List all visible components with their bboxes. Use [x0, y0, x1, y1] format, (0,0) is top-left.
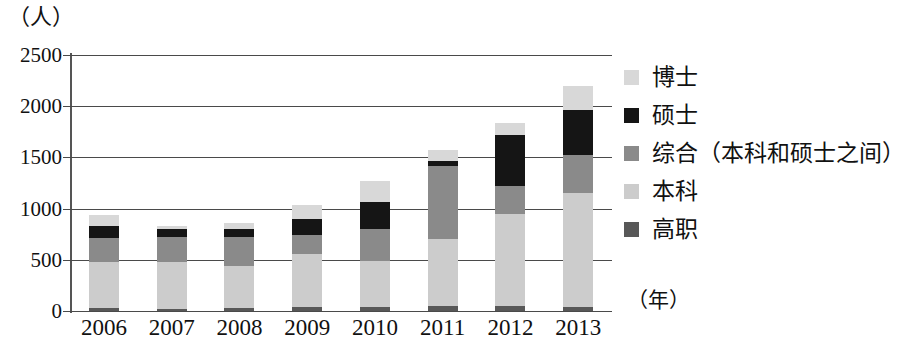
bar-segment — [157, 309, 187, 311]
bar-segment — [495, 135, 525, 186]
y-axis-tick-label: 1500 — [20, 147, 62, 168]
bar-segment — [563, 110, 593, 155]
bar-segment — [224, 308, 254, 311]
legend-swatch-icon — [624, 184, 639, 199]
x-axis-tick-labels: 20062007200820092010201120122013 — [70, 314, 612, 344]
bar-segment — [360, 261, 390, 307]
bar-segment — [495, 123, 525, 135]
gridline — [70, 157, 612, 158]
bar-segment — [157, 237, 187, 262]
bar-segment — [224, 229, 254, 237]
bar-segment — [89, 238, 119, 262]
bar-2010[interactable] — [360, 181, 390, 311]
x-axis-tick-label-2012: 2012 — [473, 314, 547, 343]
legend-item-2[interactable]: 综合（本科和硕士之间） — [624, 134, 908, 172]
legend-swatch-icon — [624, 146, 639, 161]
bar-2007[interactable] — [157, 226, 187, 311]
gridline — [70, 106, 612, 107]
bar-segment — [563, 155, 593, 193]
bar-segment — [495, 306, 525, 311]
x-axis-tick-label-2006: 2006 — [67, 314, 141, 343]
gridline — [70, 55, 612, 56]
legend-item-4[interactable]: 高职 — [624, 210, 908, 248]
legend-swatch-icon — [624, 108, 639, 123]
gridline — [70, 311, 612, 312]
y-axis-tick — [63, 209, 70, 210]
legend-label: 本科 — [652, 180, 698, 203]
x-axis-tick-label-2011: 2011 — [406, 314, 480, 343]
bar-segment — [360, 202, 390, 229]
bar-segment — [89, 226, 119, 238]
bar-segment — [157, 262, 187, 309]
bar-segment — [428, 239, 458, 306]
bar-segment — [224, 266, 254, 308]
bar-segment — [292, 254, 322, 307]
x-axis-unit-label: （年） — [627, 290, 690, 311]
x-axis-tick-label-2007: 2007 — [135, 314, 209, 343]
bar-segment — [563, 193, 593, 307]
bar-segment — [157, 229, 187, 237]
bar-segment — [428, 166, 458, 240]
legend-item-3[interactable]: 本科 — [624, 172, 908, 210]
bar-2009[interactable] — [292, 205, 322, 311]
stacked-bar-chart: （人） 05001000150020002500 200620072008200… — [0, 0, 910, 344]
y-axis-tick — [63, 106, 70, 107]
bar-segment — [89, 215, 119, 226]
legend-swatch-icon — [624, 70, 639, 85]
plot-area — [70, 55, 612, 311]
bar-2011[interactable] — [428, 150, 458, 311]
bar-segment — [360, 181, 390, 203]
bar-segment — [563, 86, 593, 111]
bar-2013[interactable] — [563, 86, 593, 311]
bar-2006[interactable] — [89, 215, 119, 311]
y-axis-tick-label: 1000 — [20, 199, 62, 220]
bar-segment — [292, 235, 322, 253]
bar-segment — [292, 219, 322, 235]
chart-legend: 博士硕士综合（本科和硕士之间）本科高职 — [624, 58, 908, 248]
bar-2012[interactable] — [495, 123, 525, 311]
y-axis-tick-label: 2000 — [20, 96, 62, 117]
bar-segment — [428, 306, 458, 311]
bar-segment — [224, 237, 254, 266]
y-axis-tick — [63, 55, 70, 56]
legend-label: 博士 — [652, 66, 698, 89]
bar-segment — [89, 308, 119, 311]
y-axis-tick — [63, 311, 70, 312]
legend-label: 综合（本科和硕士之间） — [652, 142, 905, 165]
legend-item-0[interactable]: 博士 — [624, 58, 908, 96]
y-axis-unit-label: （人） — [8, 6, 74, 28]
x-axis-tick-label-2008: 2008 — [202, 314, 276, 343]
bar-segment — [495, 214, 525, 306]
gridline — [70, 260, 612, 261]
gridline — [70, 209, 612, 210]
y-axis-tick — [63, 157, 70, 158]
bar-segment — [292, 205, 322, 219]
y-axis-line — [70, 53, 72, 313]
bar-segment — [89, 262, 119, 308]
y-axis-tick-labels: 05001000150020002500 — [0, 55, 62, 311]
bar-segment — [360, 307, 390, 311]
x-axis-tick-label-2009: 2009 — [270, 314, 344, 343]
bar-segment — [360, 229, 390, 261]
y-axis-tick — [63, 260, 70, 261]
bar-segment — [292, 307, 322, 311]
bar-segment — [563, 307, 593, 311]
legend-label: 高职 — [652, 218, 698, 241]
y-axis-tick-label: 2500 — [20, 45, 62, 66]
bar-2008[interactable] — [224, 223, 254, 311]
legend-swatch-icon — [624, 222, 639, 237]
y-axis-tick-label: 0 — [52, 301, 63, 322]
legend-label: 硕士 — [652, 104, 698, 127]
bar-segment — [428, 150, 458, 160]
legend-item-1[interactable]: 硕士 — [624, 96, 908, 134]
x-axis-tick-label-2010: 2010 — [338, 314, 412, 343]
x-axis-tick-label-2013: 2013 — [541, 314, 615, 343]
bar-segment — [495, 186, 525, 214]
y-axis-tick-label: 500 — [31, 250, 63, 271]
